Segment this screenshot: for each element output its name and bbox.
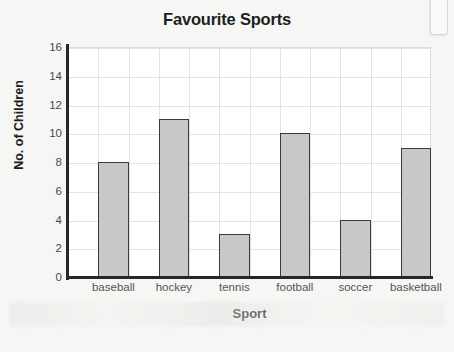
x-axis-tick-label: baseball	[92, 281, 135, 293]
chart-title: Favourite Sports	[0, 10, 454, 29]
paper-texture-artifact	[10, 302, 444, 326]
bar	[401, 148, 431, 277]
y-axis-title: No. of Children	[12, 75, 26, 175]
bar	[219, 234, 249, 277]
y-axis-tick-label: 8	[34, 156, 62, 168]
y-axis-tick-label: 12	[34, 99, 62, 111]
x-axis-tick-label: basketball	[390, 281, 442, 293]
x-axis-tick-label: football	[276, 281, 313, 293]
bars-layer	[68, 48, 430, 277]
x-axis-tick-label: soccer	[338, 281, 372, 293]
bar	[340, 220, 370, 278]
y-axis-tick-label: 10	[34, 127, 62, 139]
page-edge-artifact	[430, 0, 448, 35]
y-axis-tick-labels: 0246810121416	[30, 47, 62, 277]
bar-chart-figure: Favourite Sports No. of Children 0246810…	[0, 0, 454, 352]
x-axis-tick-label: tennis	[219, 281, 250, 293]
y-axis-tick-label: 16	[34, 41, 62, 53]
x-axis-line	[66, 276, 433, 279]
bar	[280, 133, 310, 277]
y-axis-line	[66, 44, 69, 280]
y-axis-tick-label: 14	[34, 70, 62, 82]
y-axis-tick-label: 0	[34, 271, 62, 283]
plot-area	[68, 47, 431, 277]
x-axis-tick-labels: baseballhockeytennisfootballsoccerbasket…	[68, 281, 431, 299]
x-axis-tick-label: hockey	[156, 281, 192, 293]
y-axis-tick-label: 4	[34, 214, 62, 226]
bar	[98, 162, 128, 277]
bar	[159, 119, 189, 277]
y-axis-tick-label: 6	[34, 185, 62, 197]
y-axis-tick-label: 2	[34, 242, 62, 254]
